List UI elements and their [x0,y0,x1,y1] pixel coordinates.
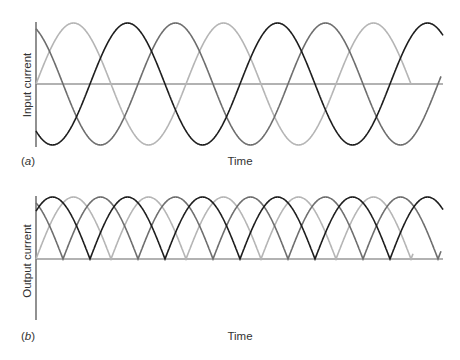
panel-a-y-label: Input current [21,52,33,117]
figure: Input current Time (a) Output current Ti… [0,0,460,360]
panel-a-label: (a) [21,155,35,167]
panel-b-phase3-rectified-curve [36,197,443,259]
panel-a-x-label: Time [227,155,252,167]
panel-b-x-label: Time [227,330,252,342]
panel-b-y-label: Output current [21,223,33,297]
panel-b-phase2-rectified-curve [36,197,441,259]
panel-b-phase1-rectified-curve [36,197,413,259]
panel-a-input-current: Input current Time (a) [21,22,443,167]
panel-b-output-current: Output current Time (b) [21,196,443,342]
panel-b-label: (b) [21,330,35,342]
